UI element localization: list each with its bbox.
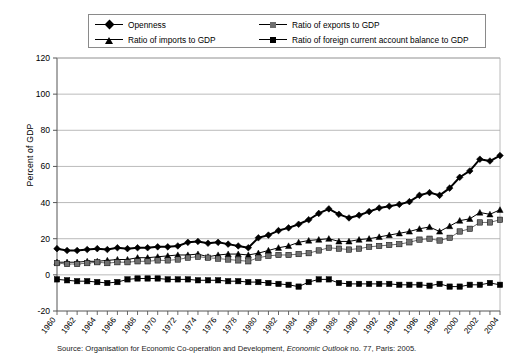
data-point: [276, 281, 281, 286]
data-point: [387, 242, 392, 247]
data-point: [296, 284, 301, 289]
x-tick-label: 1966: [100, 315, 118, 335]
data-point: [397, 282, 402, 287]
data-point: [276, 252, 281, 257]
data-point: [165, 258, 170, 263]
data-point: [376, 205, 383, 212]
data-point: [115, 260, 120, 265]
x-tick-label: 1992: [362, 315, 380, 335]
data-point: [144, 244, 151, 251]
x-tick-label: 1960: [39, 315, 57, 335]
data-point: [114, 244, 121, 251]
data-point: [477, 209, 483, 215]
data-series: [54, 152, 504, 289]
data-point: [64, 278, 69, 283]
data-point: [397, 241, 402, 246]
x-tick-label: 1996: [402, 315, 420, 335]
data-point: [336, 280, 341, 285]
data-point: [457, 229, 462, 234]
data-point: [427, 236, 432, 241]
data-point: [356, 212, 363, 219]
data-point: [487, 220, 492, 225]
data-point: [84, 246, 91, 253]
data-point: [225, 257, 230, 262]
data-point: [205, 240, 212, 247]
data-point: [407, 240, 412, 245]
source-publication: Economic Outlook: [287, 344, 349, 353]
data-point: [427, 283, 432, 288]
gridlines: [57, 58, 500, 275]
data-point: [125, 260, 130, 265]
x-tick-label: 1976: [200, 315, 218, 335]
data-point: [104, 246, 111, 253]
x-tick-label: 1972: [160, 315, 178, 335]
data-point: [306, 279, 311, 284]
x-tick-label: 2000: [442, 315, 460, 335]
data-point: [85, 278, 90, 283]
y-tick-label: 0: [45, 270, 50, 280]
data-point: [326, 245, 331, 250]
data-point: [225, 278, 230, 283]
data-point: [95, 260, 100, 265]
data-point: [256, 255, 261, 260]
data-point: [105, 260, 110, 265]
data-point: [266, 280, 271, 285]
data-point: [64, 261, 69, 266]
data-point: [124, 245, 131, 252]
data-point: [295, 221, 302, 228]
x-tick-label: 1980: [241, 315, 259, 335]
data-point: [306, 250, 311, 255]
data-point: [74, 247, 81, 254]
x-tick-label: 2002: [462, 315, 480, 335]
x-tick-label: 1986: [301, 315, 319, 335]
data-point: [286, 282, 291, 287]
source-prefix: Source: Organisation for Economic Co-ope…: [57, 344, 287, 353]
data-point: [467, 282, 472, 287]
data-point: [185, 239, 192, 246]
data-point: [175, 257, 180, 262]
data-point: [447, 223, 453, 229]
y-tick-label: 40: [40, 198, 50, 208]
data-point: [134, 244, 141, 251]
data-point: [356, 281, 361, 286]
data-point: [417, 282, 422, 287]
x-axis-ticks: 1960196219641966196819701972197419761978…: [39, 311, 500, 335]
y-tick-label: 20: [40, 234, 50, 244]
chart-svg: -20020406080100120 196019621964196619681…: [0, 0, 521, 364]
data-point: [54, 245, 61, 252]
data-point: [447, 284, 452, 289]
data-point: [236, 258, 241, 263]
data-point: [175, 243, 182, 250]
data-point: [376, 281, 381, 286]
data-point: [426, 189, 433, 196]
series-line: [57, 156, 500, 251]
data-point: [487, 280, 492, 285]
data-point: [497, 217, 502, 222]
data-point: [105, 280, 110, 285]
data-point: [155, 276, 160, 281]
data-point: [95, 279, 100, 284]
data-point: [145, 276, 150, 281]
data-point: [64, 247, 71, 254]
plot-frame: [57, 58, 500, 311]
y-tick-label: -20: [38, 306, 51, 316]
data-point: [366, 244, 371, 249]
data-point: [154, 244, 161, 251]
data-point: [275, 227, 282, 234]
data-point: [256, 279, 261, 284]
x-tick-label: 1994: [382, 315, 400, 335]
data-point: [296, 251, 301, 256]
plot-area: -20020406080100120 196019621964196619681…: [0, 0, 521, 364]
y-tick-label: 80: [40, 125, 50, 135]
data-point: [497, 282, 502, 287]
data-point: [497, 207, 503, 213]
data-point: [195, 238, 202, 245]
data-point: [346, 247, 351, 252]
data-point: [457, 284, 462, 289]
data-point: [436, 228, 442, 234]
data-point: [115, 279, 120, 284]
data-point: [54, 260, 59, 265]
data-point: [205, 255, 210, 260]
chart-page: Openness Ratio of imports to GDP Ratio o…: [0, 0, 521, 364]
data-point: [447, 235, 452, 240]
